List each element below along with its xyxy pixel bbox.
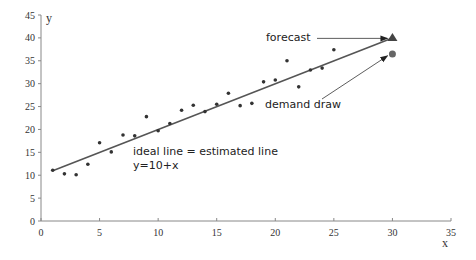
data-point [145,115,149,119]
y-tick-label: 35 [25,55,35,66]
x-tick-label: 30 [387,227,397,238]
data-point [332,48,336,52]
data-point [63,172,67,176]
y-tick-label: 20 [25,124,35,135]
demand-draw-circle-marker [389,50,396,57]
scatter-chart: 05101520253035 051015202530354045 x y fo… [0,0,476,260]
data-point [262,80,266,84]
axes [41,15,451,221]
data-point [109,150,113,154]
y-tick-label: 40 [25,32,35,43]
x-tick-label: 20 [270,227,280,238]
data-point [320,66,324,70]
data-point [227,91,231,95]
y-tick-label: 30 [25,78,35,89]
x-tick-label: 25 [329,227,339,238]
data-point [168,122,172,126]
y-tick-label: 5 [30,193,35,204]
data-point [238,104,242,108]
x-tick-label: 10 [153,227,163,238]
y-tick-label: 25 [25,101,35,112]
x-tick-label: 5 [97,227,102,238]
data-point [51,168,55,172]
data-point [180,108,184,112]
data-point [297,85,301,89]
data-point [121,133,125,137]
forecast-label: forecast [266,31,311,44]
equation-label: y=10+x [133,159,179,172]
y-axis-ticks: 051015202530354045 [25,10,41,227]
y-axis-label: y [46,11,52,25]
data-point [203,110,207,114]
data-point [74,173,78,177]
data-point [98,141,102,145]
ideal-line-label: ideal line = estimated line [133,145,278,158]
x-tick-label: 15 [212,227,222,238]
forecast-triangle-marker [387,33,397,41]
y-tick-label: 0 [30,216,35,227]
forecast-markers [387,33,397,58]
data-point [86,162,90,166]
demand-draw-label: demand draw [265,98,341,111]
y-tick-label: 15 [25,147,35,158]
data-point [250,102,254,106]
data-point [215,102,219,106]
data-point [133,134,137,138]
y-tick-label: 45 [25,10,35,21]
data-point [285,59,289,63]
data-point [309,68,313,72]
y-tick-label: 10 [25,170,35,181]
x-tick-label: 0 [39,227,44,238]
data-point [191,103,195,107]
x-axis-label: x [442,236,448,250]
annotation-arrows [317,38,387,99]
data-point [273,78,277,82]
data-point [156,129,160,133]
